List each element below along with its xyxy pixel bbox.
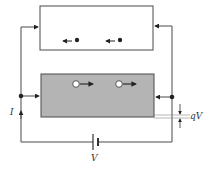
current-label: I: [9, 107, 14, 117]
bottom-box: [41, 74, 154, 117]
left-junction-dot: [19, 94, 24, 99]
battery-icon: [93, 134, 98, 150]
circuit-diagram: I V qV: [0, 0, 214, 173]
voltage-label: V: [91, 153, 99, 163]
diagram-canvas: I V qV: [0, 0, 214, 173]
top-region: [40, 6, 153, 50]
right-junction-dot: [170, 95, 175, 100]
bottom-region: [41, 74, 154, 117]
top-box: [40, 6, 153, 50]
energy-shift-label: qV: [190, 111, 204, 121]
